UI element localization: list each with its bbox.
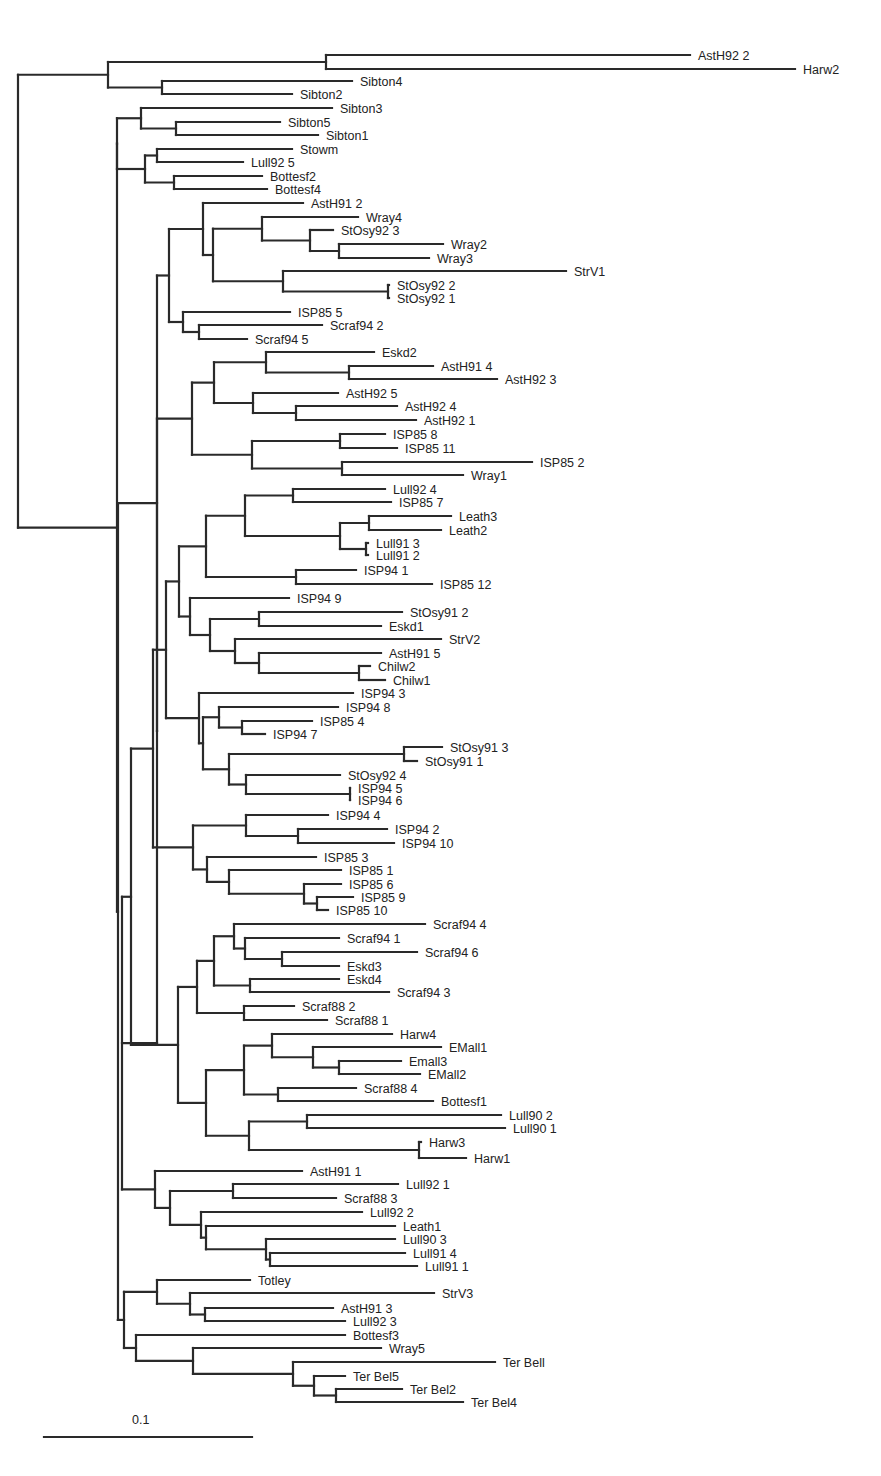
- leaf-label: Wray5: [389, 1342, 425, 1356]
- leaf-label: Scraf94 5: [255, 333, 309, 347]
- leaf-label: ISP85 9: [361, 891, 406, 905]
- scale-bar: 0.1: [44, 1413, 252, 1437]
- leaf-label: AstH92 5: [346, 387, 397, 401]
- leaf-label: Scraf94 2: [330, 319, 384, 333]
- leaf-label: Totley: [258, 1274, 291, 1288]
- leaf-label: Sibton5: [288, 116, 330, 130]
- leaf-label: ISP94 3: [361, 687, 406, 701]
- leaf-label: Scraf94 3: [397, 986, 451, 1000]
- leaf-label: Lull92 3: [353, 1315, 397, 1329]
- leaf-label: Lull90 1: [513, 1122, 557, 1136]
- leaf-label: AstH92 4: [405, 400, 456, 414]
- leaf-label: Wray3: [437, 252, 473, 266]
- leaf-label: Scraf88 4: [364, 1082, 418, 1096]
- leaf-label: EMall2: [428, 1068, 466, 1082]
- leaf-label: Bottesf2: [270, 170, 316, 184]
- leaf-label: Harw2: [803, 63, 839, 77]
- leaf-label: StOsy92 1: [397, 292, 455, 306]
- leaf-label: ISP85 4: [320, 715, 365, 729]
- leaf-label: ISP85 7: [399, 496, 444, 510]
- leaf-label: AstH92 1: [424, 414, 475, 428]
- leaf-label: Emall3: [409, 1055, 447, 1069]
- leaf-label: Lull91 1: [425, 1260, 469, 1274]
- leaf-label: ISP85 2: [540, 456, 585, 470]
- leaf-label: Bottesf3: [353, 1329, 399, 1343]
- leaf-label: ISP94 9: [297, 592, 342, 606]
- leaf-label: Scraf94 1: [347, 932, 401, 946]
- leaf-label: ISP85 5: [298, 306, 343, 320]
- leaf-label: ISP85 3: [324, 851, 369, 865]
- leaf-label: StOsy91 2: [410, 606, 468, 620]
- leaf-label: Sibton1: [326, 129, 368, 143]
- leaf-label: Sibton4: [360, 75, 402, 89]
- leaf-label: ISP85 8: [393, 428, 438, 442]
- leaf-label: Sibton3: [340, 102, 382, 116]
- leaf-label: EMall1: [449, 1041, 487, 1055]
- leaf-label: StOsy91 1: [425, 755, 483, 769]
- leaf-label: StOsy92 2: [397, 279, 455, 293]
- leaf-label: Sibton2: [300, 88, 342, 102]
- tree-branches: [18, 55, 795, 1402]
- leaf-label: AstH91 4: [441, 360, 492, 374]
- leaf-label: StOsy92 3: [341, 224, 399, 238]
- leaf-label: Chilw2: [378, 660, 416, 674]
- leaf-label: Ter Bel5: [353, 1370, 399, 1384]
- leaf-label: ISP85 10: [336, 904, 387, 918]
- leaf-label: ISP85 6: [349, 878, 394, 892]
- leaf-label: Bottesf4: [275, 183, 321, 197]
- leaf-label: Leath3: [459, 510, 497, 524]
- leaf-label: Harw4: [400, 1028, 436, 1042]
- leaf-label: Harw1: [474, 1152, 510, 1166]
- leaf-label: Leath1: [403, 1220, 441, 1234]
- leaf-label: Scraf88 3: [344, 1192, 398, 1206]
- leaf-label: Ter Bel4: [471, 1396, 517, 1410]
- leaf-label: Eskd2: [382, 346, 417, 360]
- leaf-label: ISP85 12: [440, 578, 491, 592]
- leaf-label: Leath2: [449, 524, 487, 538]
- leaf-label: StrV3: [442, 1287, 473, 1301]
- leaf-label: StOsy91 3: [450, 741, 508, 755]
- leaf-label: AstH92 3: [505, 373, 556, 387]
- leaf-label: AstH91 2: [311, 197, 362, 211]
- leaf-label: ISP94 6: [358, 794, 403, 808]
- leaf-label: ISP94 8: [346, 701, 391, 715]
- leaf-label: Wray2: [451, 238, 487, 252]
- leaf-label: Lull91 4: [413, 1247, 457, 1261]
- leaf-label: StrV2: [449, 633, 480, 647]
- leaf-label: AstH91 3: [341, 1302, 392, 1316]
- leaf-label: StrV1: [574, 265, 605, 279]
- leaf-label: ISP94 2: [395, 823, 440, 837]
- leaf-label: Ter Bell: [503, 1356, 545, 1370]
- leaf-label: Chilw1: [393, 674, 431, 688]
- leaf-label: Stowm: [300, 143, 338, 157]
- leaf-label: AstH91 1: [310, 1165, 361, 1179]
- leaf-label: ISP85 1: [349, 864, 394, 878]
- leaf-label: Lull92 5: [251, 156, 295, 170]
- leaf-label: AstH91 5: [389, 647, 440, 661]
- leaf-label: Wray4: [366, 211, 402, 225]
- leaf-label: Scraf94 6: [425, 946, 479, 960]
- leaf-label: StOsy92 4: [348, 769, 406, 783]
- leaf-label: Scraf88 2: [302, 1000, 356, 1014]
- phylogenetic-tree: AstH92 2Harw2Sibton4Sibton2Sibton3Sibton…: [0, 0, 881, 1476]
- leaf-label: Eskd1: [389, 620, 424, 634]
- leaf-label: Eskd4: [347, 973, 382, 987]
- leaf-label: Harw3: [429, 1136, 465, 1150]
- leaf-label: Lull91 2: [376, 549, 420, 563]
- leaf-label: Lull90 3: [403, 1233, 447, 1247]
- leaf-label: ISP94 10: [402, 837, 453, 851]
- leaf-label: ISP85 11: [405, 442, 456, 456]
- leaf-label: Lull92 1: [406, 1178, 450, 1192]
- leaf-label: Lull90 2: [509, 1109, 553, 1123]
- leaf-label: Wray1: [471, 469, 507, 483]
- leaf-label: Bottesf1: [441, 1095, 487, 1109]
- leaf-label: AstH92 2: [698, 49, 749, 63]
- leaf-label: Eskd3: [347, 960, 382, 974]
- leaf-label: ISP94 7: [273, 728, 318, 742]
- leaf-label: ISP94 4: [336, 809, 381, 823]
- leaf-label: ISP94 1: [364, 564, 409, 578]
- leaf-label: Ter Bel2: [410, 1383, 456, 1397]
- leaf-label: Lull92 2: [370, 1206, 414, 1220]
- scale-bar-label: 0.1: [132, 1413, 149, 1427]
- leaf-label: Scraf88 1: [335, 1014, 389, 1028]
